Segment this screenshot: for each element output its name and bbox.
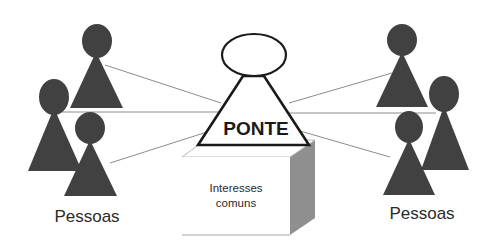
bridge-diagram: Interesses comuns PONTE Pessoas — [0, 0, 495, 244]
connector-right-1 — [289, 73, 392, 103]
common-interests-box: Interesses comuns — [182, 140, 315, 235]
person-icon — [28, 79, 82, 171]
interesses-label: Interesses — [209, 182, 262, 194]
comuns-label: comuns — [216, 197, 257, 209]
box-front-face — [182, 157, 290, 235]
connector-left-1 — [105, 65, 221, 103]
person-icon — [376, 24, 428, 107]
right-people-group: Pessoas — [376, 24, 469, 223]
right-pessoas-label: Pessoas — [389, 204, 454, 223]
person-icon — [421, 76, 469, 170]
ponte-label: PONTE — [223, 118, 288, 139]
bridge-figure: PONTE — [198, 34, 309, 145]
person-icon — [70, 24, 123, 108]
left-people-group: Pessoas — [28, 24, 123, 226]
bridge-head-ellipse — [222, 34, 286, 76]
left-pessoas-label: Pessoas — [54, 207, 119, 226]
